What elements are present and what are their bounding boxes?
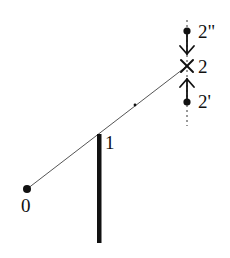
up-arrow-icon bbox=[180, 79, 194, 99]
label-2doubleprime: 2" bbox=[198, 21, 215, 42]
label-1: 1 bbox=[105, 132, 115, 153]
ray-line bbox=[27, 66, 187, 189]
label-2: 2 bbox=[198, 56, 208, 77]
mid-marker-dot bbox=[134, 104, 137, 107]
point-0-dot bbox=[23, 185, 31, 193]
label-0: 0 bbox=[21, 195, 31, 216]
down-arrow-icon bbox=[180, 34, 194, 54]
barrier-bar bbox=[97, 134, 102, 243]
point-2prime-dot bbox=[183, 98, 190, 105]
diagram-canvas: 0 1 2" 2 2' bbox=[0, 0, 230, 258]
label-2prime: 2' bbox=[198, 91, 211, 112]
